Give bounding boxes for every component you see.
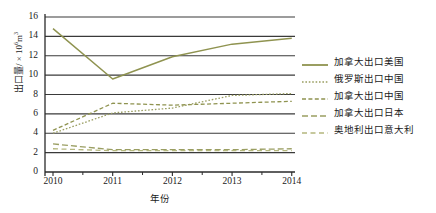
legend-line-sample [302, 107, 328, 117]
legend-label: 加拿大出口美国 [334, 54, 404, 68]
series-line [53, 101, 292, 130]
legend-label: 加拿大出口日本 [334, 105, 404, 119]
legend-item[interactable]: 奥地利出口意大利 [302, 120, 434, 137]
chart-legend: 加拿大出口美国俄罗斯出口中国加拿大出口中国加拿大出口日本奥地利出口意大利 [302, 52, 434, 137]
chart-figure: 出口量/ × 106m3 0246810121416 2010201120122… [0, 0, 436, 213]
legend-label: 奥地利出口意大利 [334, 122, 414, 136]
legend-label: 加拿大出口中国 [334, 88, 404, 102]
legend-item[interactable]: 加拿大出口中国 [302, 86, 434, 103]
legend-item[interactable]: 加拿大出口美国 [302, 52, 434, 69]
legend-line-sample [302, 90, 328, 100]
legend-label: 俄罗斯出口中国 [334, 71, 404, 85]
legend-line-sample [302, 124, 328, 134]
series-line [53, 144, 292, 150]
legend-line-sample [302, 56, 328, 66]
legend-line-sample [302, 73, 328, 83]
legend-item[interactable]: 加拿大出口日本 [302, 103, 434, 120]
legend-item[interactable]: 俄罗斯出口中国 [302, 69, 434, 86]
